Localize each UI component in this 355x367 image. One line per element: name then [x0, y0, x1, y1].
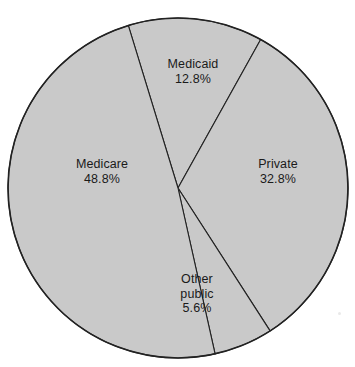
scan-speck	[338, 312, 341, 315]
pie-chart: Medicaid 12.8% Medicare 48.8% Private 32…	[0, 0, 355, 367]
pie-slices	[8, 18, 348, 358]
pie-chart-svg	[0, 0, 355, 367]
